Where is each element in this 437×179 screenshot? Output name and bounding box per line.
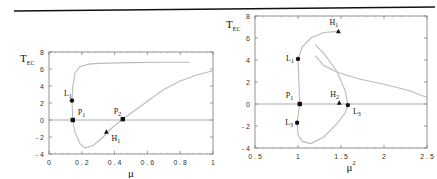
point-marker-circle <box>346 103 350 107</box>
point-label: L3 <box>353 107 361 117</box>
y-tick-label: 8 <box>246 13 250 20</box>
point-label: P1 <box>286 91 293 101</box>
point-label: H1 <box>329 18 338 28</box>
y-tick-label: - 4 <box>242 145 250 152</box>
point-label: H2 <box>330 90 339 100</box>
y-tick-label: 4 <box>246 57 250 64</box>
point-marker-square <box>71 118 75 122</box>
y-tick-label: - 2 <box>36 134 44 141</box>
point-label: L3 <box>285 118 293 128</box>
series-upper-branch <box>298 31 338 59</box>
x-tick-label: 2 . 5 <box>420 153 434 160</box>
point-label: P1 <box>78 108 85 118</box>
point-marker-square <box>298 102 302 106</box>
y-tick-label: 6 <box>40 66 44 73</box>
y-tick-label: - 2 <box>242 123 250 130</box>
x-axis-label: μ <box>128 167 134 178</box>
x-tick-label: 0 <box>47 159 51 166</box>
x-tick-label: 1 <box>211 159 215 166</box>
x-tick-label: 0 . 8 <box>173 159 187 166</box>
left-chart: 00 . 20 . 40 . 60 . 81- 4- 202468L1P1P2H… <box>20 49 215 179</box>
right-chart: 0 . 511 . 522 . 5- 4- 202468H1L1P1H2L3L3… <box>226 13 434 174</box>
series-rising-branch <box>123 71 213 120</box>
series-upper-branch <box>72 62 190 100</box>
x-tick-label: 0 . 2 <box>75 159 89 166</box>
x-tick-label: 1 . 5 <box>334 153 348 160</box>
point-marker-circle <box>295 121 299 125</box>
x-tick-label: 1 <box>296 153 300 160</box>
figure: 00 . 20 . 40 . 60 . 81- 4- 202468L1P1P2H… <box>0 0 437 178</box>
y-tick-label: 2 <box>40 100 44 107</box>
y-tick-label: 4 <box>40 83 44 90</box>
plot-frame <box>49 52 213 154</box>
x-tick-label: 2 <box>382 153 386 160</box>
point-marker-circle <box>296 57 300 61</box>
y-tick-label: 6 <box>246 35 250 42</box>
point-label: H1 <box>111 134 120 144</box>
y-tick-label: 2 <box>246 79 250 86</box>
series-loop-branch <box>297 45 348 144</box>
x-tick-label: 0 . 6 <box>141 159 155 166</box>
point-label: L1 <box>286 54 294 64</box>
x-tick-label: 0 . 5 <box>248 153 262 160</box>
point-label: P2 <box>114 107 121 117</box>
y-axis-label: TEC <box>226 18 240 32</box>
top-rule <box>14 7 435 11</box>
series-left-branch <box>297 59 300 123</box>
x-axis-label: μ2 <box>347 160 356 173</box>
point-label: L1 <box>64 89 72 99</box>
y-tick-label: 0 <box>246 101 250 108</box>
y-axis-label: TEC <box>20 52 34 66</box>
point-marker-triangle <box>337 100 342 104</box>
point-marker-square <box>121 117 125 121</box>
y-tick-label: - 4 <box>36 151 44 158</box>
y-tick-label: 8 <box>40 49 44 56</box>
y-tick-label: 0 <box>40 117 44 124</box>
x-tick-label: 0 . 4 <box>108 159 122 166</box>
